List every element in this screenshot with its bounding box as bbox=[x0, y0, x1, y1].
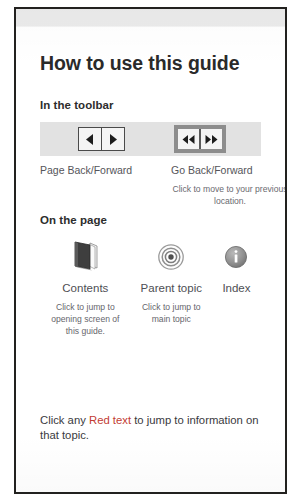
label-go-back-forward: Go Back/Forward bbox=[171, 164, 253, 176]
page-forward-button[interactable] bbox=[101, 128, 124, 150]
page-back-button[interactable] bbox=[79, 128, 101, 150]
go-back-button[interactable] bbox=[178, 129, 199, 149]
toolbar-strip bbox=[40, 122, 261, 156]
triangle-left-icon bbox=[85, 133, 95, 146]
section-heading-toolbar: In the toolbar bbox=[40, 74, 261, 111]
onpage-item-contents[interactable]: Contents Click to jump to opening screen… bbox=[40, 236, 131, 338]
note-contents: Click to jump to opening screen of this … bbox=[40, 302, 131, 338]
page-back-forward-button-group[interactable] bbox=[78, 127, 125, 151]
triangle-right-icon bbox=[108, 133, 118, 146]
onpage-item-parent-topic[interactable]: Parent topic Click to jump to main topic bbox=[131, 236, 212, 338]
book-icon-slot bbox=[40, 236, 131, 278]
double-triangle-left-icon bbox=[181, 134, 196, 145]
toolbar-labels: Page Back/Forward Go Back/Forward Click … bbox=[40, 164, 261, 178]
label-contents: Contents bbox=[40, 282, 131, 294]
info-icon[interactable] bbox=[224, 245, 248, 269]
label-parent-topic: Parent topic bbox=[131, 282, 212, 294]
target-icon-slot bbox=[131, 236, 212, 278]
guide-page-frame: How to use this guide In the toolbar bbox=[14, 7, 287, 494]
note-parent-topic: Click to jump to main topic bbox=[131, 302, 212, 326]
target-icon[interactable] bbox=[157, 243, 185, 271]
footer-red-text[interactable]: Red text bbox=[89, 414, 131, 426]
info-icon-slot bbox=[212, 236, 261, 278]
go-back-forward-button-group[interactable] bbox=[174, 125, 226, 153]
onpage-icon-row: Contents Click to jump to opening screen… bbox=[40, 236, 261, 338]
onpage-item-index[interactable]: Index bbox=[212, 236, 261, 338]
note-go-back-forward: Click to move to your previous location. bbox=[171, 184, 287, 207]
label-page-back-forward: Page Back/Forward bbox=[40, 164, 132, 176]
label-index: Index bbox=[212, 282, 261, 294]
page-top-strip bbox=[16, 9, 285, 27]
footer-note: Click any Red text to jump to informatio… bbox=[40, 413, 265, 444]
book-icon[interactable] bbox=[70, 240, 100, 274]
double-triangle-right-icon bbox=[204, 134, 219, 145]
footer-prefix: Click any bbox=[40, 414, 89, 426]
page-title: How to use this guide bbox=[40, 26, 261, 74]
go-forward-button[interactable] bbox=[199, 129, 222, 149]
